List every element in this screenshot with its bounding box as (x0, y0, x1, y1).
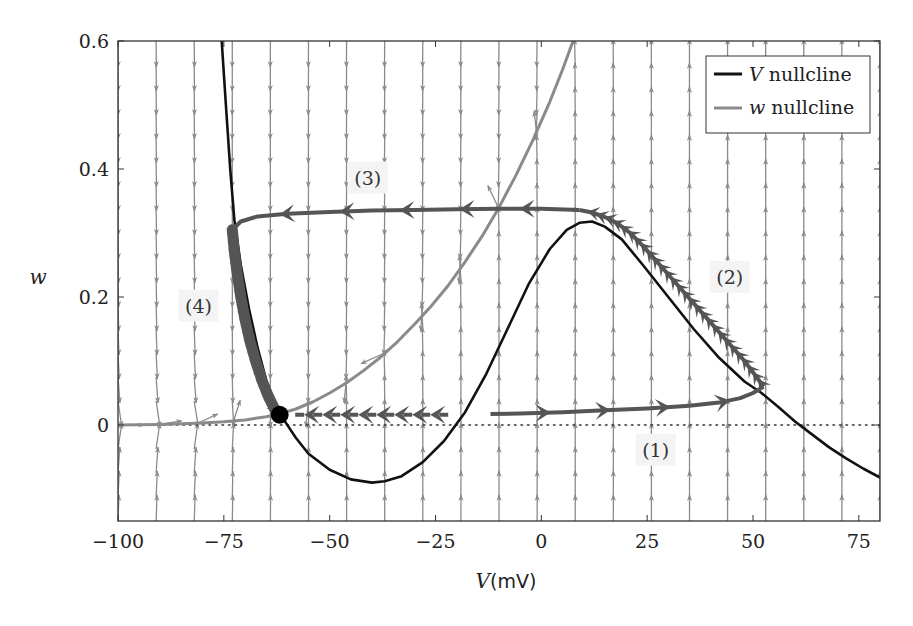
annotation-label: (2) (716, 266, 743, 288)
vector-field-arrow (422, 281, 423, 307)
x-tick-label: 0 (535, 530, 547, 552)
vector-field-arrow (422, 257, 423, 283)
vector-field-arrow (232, 447, 233, 473)
x-tick-label: −75 (204, 530, 244, 552)
fixed-point-marker (271, 406, 289, 424)
phase-plane-chart: (1)(2)(3)(4) −100−75−50−250255075 00.20.… (0, 0, 913, 626)
vector-field-arrow (156, 305, 157, 331)
vector-field-arrow (460, 209, 461, 235)
vector-field-arrow (232, 377, 233, 403)
annotation-label: (4) (185, 295, 212, 317)
y-tick-label: 0 (97, 414, 109, 436)
vector-field-arrow (232, 471, 233, 497)
vector-field-arrow (384, 329, 385, 355)
vector-field-arrow (460, 233, 461, 259)
x-tick-label: −25 (415, 530, 455, 552)
y-tick-label: 0.6 (79, 30, 109, 52)
y-tick-label: 0.2 (79, 286, 109, 308)
x-tick-label: 50 (741, 530, 765, 552)
vector-field-arrow (156, 281, 157, 307)
y-tick-label: 0.4 (79, 158, 109, 180)
vector-field-arrow (572, 15, 575, 41)
vector-field-arrow (156, 257, 157, 283)
vector-field-arrow (384, 305, 385, 331)
x-axis-label: V(mV) (476, 569, 537, 593)
legend: Vnullcline wnullcline (706, 56, 870, 133)
x-tick-label: 75 (847, 530, 871, 552)
annotation-label: (1) (642, 439, 669, 461)
vector-field-arrow (537, 135, 538, 161)
vector-field-arrow (498, 161, 499, 187)
x-tick-label: 25 (635, 530, 659, 552)
legend-entry-w-nullcline: wnullcline (749, 96, 854, 118)
vector-field-arrow (575, 39, 576, 65)
vector-field-arrow (194, 257, 195, 283)
x-tick-label: −100 (92, 530, 144, 552)
y-axis-label: w (29, 265, 46, 289)
x-tick-label: −50 (310, 530, 350, 552)
vector-field-arrow (346, 353, 347, 379)
annotation-label: (3) (354, 167, 381, 189)
vector-field-arrow (536, 89, 537, 115)
